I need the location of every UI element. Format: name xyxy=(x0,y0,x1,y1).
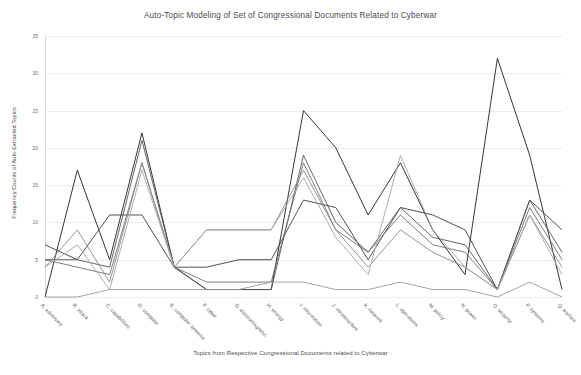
series-line xyxy=(45,155,562,289)
series-line xyxy=(45,163,562,290)
series-line xyxy=(45,200,562,289)
chart-container: Auto-Topic Modeling of Set of Congressio… xyxy=(0,0,581,375)
series-line xyxy=(45,163,562,290)
series-line xyxy=(45,282,562,297)
x-axis-title: Topics from Respective Congressional Doc… xyxy=(0,350,581,356)
